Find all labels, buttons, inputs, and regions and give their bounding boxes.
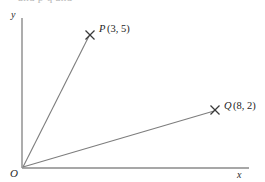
- point-p-label: P(3, 5): [99, 24, 130, 35]
- vector-oq-line: [23, 111, 214, 167]
- x-axis-label: x: [237, 170, 241, 180]
- point-p-coords: (3, 5): [107, 23, 130, 34]
- point-q-label: Q(8, 2): [224, 101, 256, 112]
- vector-op-line: [23, 36, 89, 167]
- plot-canvas: [0, 0, 265, 182]
- point-q-name: Q: [224, 100, 233, 111]
- origin-label: O: [10, 168, 18, 179]
- point-q-coords: (8, 2): [233, 100, 256, 111]
- point-p-name: P: [99, 23, 107, 34]
- y-axis-label: y: [11, 10, 15, 20]
- point-p-marker: [86, 31, 95, 40]
- point-q-marker: [211, 106, 220, 115]
- coordinate-diagram: and p q and y x O P(3, 5) Q(8, 2): [0, 0, 265, 182]
